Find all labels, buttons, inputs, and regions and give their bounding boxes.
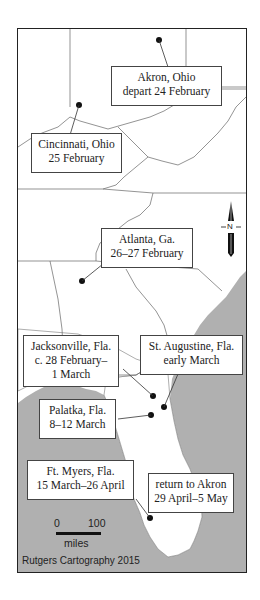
border-ky-tn — [18, 189, 247, 193]
label-ft-myers: Ft. Myers, Fla. 15 March–26 April — [27, 460, 134, 500]
scale-min: 0 — [54, 517, 60, 529]
north-label: N — [227, 222, 233, 231]
label-cincinnati: Cincinnati, Ohio 25 February — [31, 133, 122, 173]
scale-bar — [56, 532, 101, 535]
map-frame: Akron, Ohio depart 24 February Cincinnat… — [17, 28, 247, 573]
scale-max: 100 — [88, 517, 106, 529]
credit: Rutgers Cartography 2015 — [22, 555, 140, 566]
north-arrow: N — [218, 201, 244, 257]
label-akron: Akron, Ohio depart 24 February — [111, 66, 222, 106]
label-return: return to Akron 29 April–5 May — [148, 473, 234, 513]
label-palatka: Palatka, Fla. 8–12 March — [39, 399, 116, 439]
label-jacksonville: Jacksonville, Fla. c. 28 February– 1 Mar… — [23, 335, 119, 387]
label-st-augustine: St. Augustine, Fla. early March — [140, 335, 243, 375]
label-atlanta: Atlanta, Ga. 26–27 February — [101, 228, 193, 268]
scale-unit: miles — [64, 537, 89, 549]
